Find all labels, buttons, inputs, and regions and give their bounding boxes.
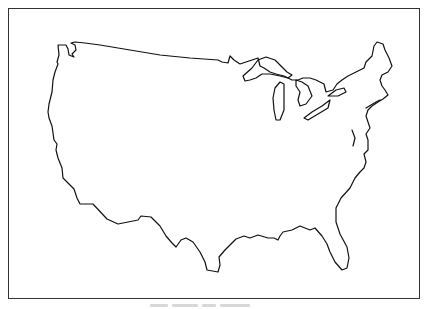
lake-erie [304, 100, 330, 120]
chesapeake-bay [352, 130, 355, 146]
lake-ontario [328, 88, 346, 96]
us-outline [48, 42, 392, 272]
lake-huron [296, 80, 312, 106]
map-caption [150, 302, 280, 308]
lake-michigan [273, 82, 284, 120]
us-outline-map [0, 0, 425, 309]
long-island [366, 100, 380, 108]
